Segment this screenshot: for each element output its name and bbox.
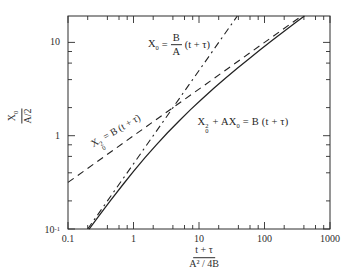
x-tick-label: 0.1 [62,233,75,244]
y-axis-title-fraction: X0 A/2 [7,109,33,124]
eq-linear-variable: X0 [148,38,159,52]
x-axis-title-denominator: A² / 4B [189,258,219,270]
eq-linear-fraction: B A [171,32,182,58]
y-tick-label: 1 [55,130,60,141]
y-axis-title-denominator: A/2 [22,109,34,124]
eq-linear-tail: (t + τ) [185,40,210,51]
x-axis-title: t + τ A² / 4B [189,244,219,270]
y-tick-label: 10 [50,36,60,47]
oxide-growth-log-log-chart: X0 A/2 t + τ A² / 4B X0 = B A (t + τ) X2… [0,0,349,280]
y-tick-label: 10-1 [45,223,60,235]
eq-mixed-mid: + AX0 [213,116,240,127]
x-tick-label: 10 [194,233,204,244]
x-axis-title-numerator: t + τ [193,245,214,258]
equation-label-linear-asymptote: X0 = B A (t + τ) [148,32,210,58]
x-tick-label: 1000 [320,233,340,244]
x-tick-label: 1 [131,233,136,244]
x-axis-title-fraction: t + τ A² / 4B [189,245,219,270]
y-axis-title-numerator: X0 [7,109,22,123]
eq-mixed-variable: X20 [198,116,210,127]
eq-mixed-tail: = B (t + τ) [243,116,289,127]
x-tick-label: 100 [257,233,272,244]
equation-label-linear-parabolic: X20 + AX0 = B (t + τ) [198,116,289,133]
eq-linear-equals: = [162,40,168,51]
y-axis-title: X0 A/2 [6,109,33,124]
